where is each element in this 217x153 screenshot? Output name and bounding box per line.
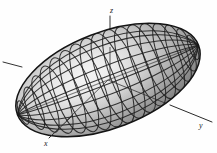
- axis-line-y-negative: [3, 62, 22, 67]
- axis-line-y: [170, 105, 212, 122]
- axis-label-z: z: [110, 7, 113, 15]
- axis-label-y: y: [199, 122, 203, 130]
- ellipsoid-surface-plot: [0, 0, 217, 153]
- ellipsoid-figure: z y x: [0, 0, 217, 153]
- axis-label-x: x: [44, 140, 48, 148]
